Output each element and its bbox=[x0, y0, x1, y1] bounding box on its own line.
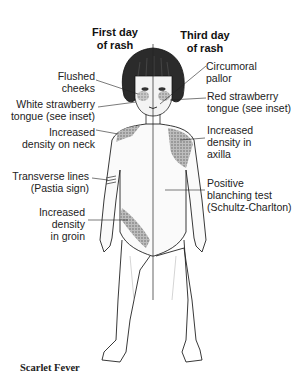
figure-caption: Scarlet Fever bbox=[20, 362, 80, 373]
label-increased-density-axilla: Increased density in axilla bbox=[207, 124, 253, 160]
label-positive-blanching-test: Positive blanching test (Schultz-Charlto… bbox=[207, 177, 292, 213]
label-flushed-cheeks: Flushed cheeks bbox=[58, 70, 95, 94]
label-white-strawberry-tongue: White strawberry tongue (see inset) bbox=[11, 98, 95, 122]
scarlet-fever-diagram: First day of rash Third day of rash Flus… bbox=[0, 0, 307, 386]
label-red-strawberry-tongue: Red strawberry tongue (see inset) bbox=[207, 90, 291, 114]
label-increased-density-neck: Increased density on neck bbox=[22, 126, 95, 150]
header-first-day: First day of rash bbox=[80, 26, 150, 52]
label-circumoral-pallor: Circumoral pallor bbox=[206, 60, 257, 84]
header-third-day: Third day of rash bbox=[170, 29, 240, 55]
legs bbox=[102, 240, 202, 362]
label-transverse-lines: Transverse lines (Pastia sign) bbox=[12, 170, 89, 194]
label-increased-density-groin: Increased density in groin bbox=[39, 206, 85, 242]
